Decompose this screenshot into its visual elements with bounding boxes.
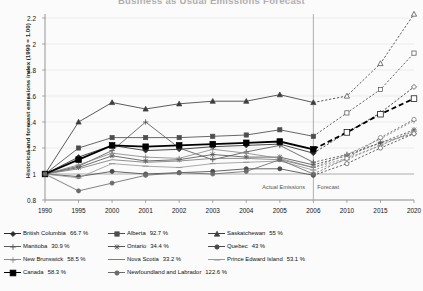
legend-swatch [4, 246, 21, 247]
y-tick-label: 2.2 [14, 15, 36, 22]
legend-label: Quebec [227, 243, 248, 249]
x-tick-label: 2015 [363, 207, 397, 214]
series-line [42, 131, 417, 178]
data-point-circle [412, 117, 416, 121]
data-point-bigsquare [143, 144, 149, 150]
legend-value: 58.5 % [67, 256, 85, 262]
legend-marker-diamond-icon [8, 229, 17, 238]
data-point-bigsquare [10, 270, 16, 276]
series-line [42, 96, 417, 177]
legend-label: Nova Scotia [127, 256, 159, 262]
data-point-square [76, 146, 80, 150]
legend-value: 30.9 % [51, 243, 69, 249]
data-point-circle [345, 162, 349, 166]
legend-marker-bigsquare-icon [8, 268, 17, 277]
legend-label: Saskatchewan [227, 230, 265, 236]
legend-item[interactable]: Canada58.3 % [4, 269, 66, 275]
y-tick-label: 0.8 [14, 197, 36, 204]
data-point-circle [211, 172, 215, 176]
data-point-square [114, 231, 118, 235]
legend-label: British Columbia [23, 230, 66, 236]
legend-label: Prince Edward Island [227, 256, 283, 262]
data-point-circle [278, 158, 282, 162]
data-point-square [378, 87, 382, 91]
data-point-triangle [277, 92, 282, 97]
y-tick-label: 1.8 [14, 67, 36, 74]
legend-value: 33.2 % [163, 256, 181, 262]
data-point-star [114, 244, 119, 249]
series-line [45, 131, 414, 174]
data-point-square [345, 111, 349, 115]
series-line [43, 117, 416, 193]
x-tick-label: 2002 [162, 207, 196, 214]
x-tick-label: 2010 [330, 207, 364, 214]
data-point-star [210, 152, 215, 157]
legend-swatch [108, 259, 125, 260]
series-forecast-path [313, 131, 414, 170]
legend-value: 92.7 % [150, 230, 168, 236]
data-point-bigsquare [109, 143, 115, 149]
data-point-bigsquare [243, 140, 249, 146]
x-tick-label: 2005 [263, 207, 297, 214]
legend-value: 58.3 % [48, 269, 66, 275]
data-point-circle [177, 171, 181, 175]
legend-item[interactable]: Prince Edward Island53.1 % [208, 256, 305, 262]
legend-swatch [108, 246, 125, 247]
data-point-bigsquare [411, 96, 417, 102]
actual-emissions-label: Actual Emissions [262, 184, 305, 190]
data-point-cross [210, 157, 215, 162]
legend-swatch [4, 272, 21, 273]
data-point-plus [10, 257, 16, 263]
legend-item[interactable]: New Brunswick58.5 % [4, 256, 86, 262]
data-point-square [244, 133, 248, 137]
legend-label: Alberta [127, 230, 146, 236]
data-point-circle [244, 169, 248, 173]
legend-item[interactable]: Quebec43 % [208, 243, 265, 249]
data-point-diamond [412, 84, 417, 89]
legend-label: Manitoba [23, 243, 47, 249]
forecast-label: Forecast [317, 184, 339, 190]
data-point-square [278, 128, 282, 132]
legend-value: 122.6 % [205, 269, 227, 275]
legend-item[interactable]: Alberta92.7 % [108, 230, 168, 236]
data-point-square [144, 136, 148, 140]
legend-item[interactable]: Ontario34.4 % [108, 243, 169, 249]
legend-swatch [4, 259, 21, 260]
legend-value: 53.1 % [287, 256, 305, 262]
legend-item[interactable]: Manitoba30.9 % [4, 243, 70, 249]
legend-item[interactable]: Nova Scotia33.2 % [108, 256, 181, 262]
chart-legend: British Columbia66.7 %Alberta92.7 %Saska… [0, 228, 423, 291]
data-point-bigsquare [344, 130, 350, 136]
legend-label: Ontario [127, 243, 146, 249]
data-point-bigsquare [176, 143, 182, 149]
legend-value: 34.4 % [150, 243, 168, 249]
series-forecast-path [313, 119, 414, 174]
data-point-circle [114, 270, 118, 274]
legend-value: 66.7 % [70, 230, 88, 236]
series-forecast-path [313, 14, 414, 102]
legend-item[interactable]: British Columbia66.7 % [4, 230, 88, 236]
data-point-square [110, 136, 114, 140]
emissions-forecast-chart: Business as Usual Emissions Forecast His… [0, 0, 423, 291]
data-point-plus [176, 156, 181, 161]
legend-swatch [108, 272, 125, 273]
x-tick-label: 2000 [95, 207, 129, 214]
data-point-square [211, 134, 215, 138]
legend-item[interactable]: Newfoundland and Labrador122.6 % [108, 269, 227, 275]
legend-item[interactable]: Saskatchewan55 % [208, 230, 283, 236]
legend-swatch [108, 233, 125, 234]
legend-marker-square-icon [112, 229, 121, 238]
x-tick-label: 2003 [196, 207, 230, 214]
data-point-circle [412, 132, 416, 136]
x-tick-label: 1995 [62, 207, 96, 214]
x-tick-label: 2006 [296, 207, 330, 214]
data-point-circle [110, 181, 114, 185]
series-forecast-path [313, 99, 414, 150]
data-point-cross [10, 244, 16, 250]
series-forecast-path [313, 134, 414, 176]
data-point-triangle [76, 119, 81, 124]
data-point-triangle [411, 11, 416, 16]
data-point-bigsquare [210, 141, 216, 147]
data-point-circle [378, 136, 382, 140]
legend-marker-plus-icon [8, 255, 17, 264]
